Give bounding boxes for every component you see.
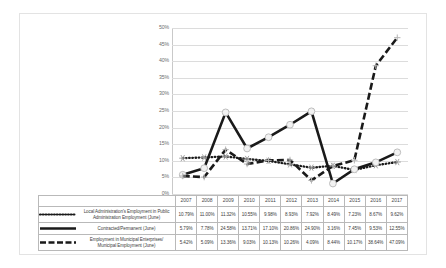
table-value-cell: 24.58% [218, 223, 239, 235]
y-axis-tick: 5% [162, 175, 169, 180]
table-header-row: 2007200820092010201120122013201420152016… [39, 196, 408, 207]
series-1-marker [179, 155, 186, 161]
table-year-header: 2008 [197, 196, 218, 207]
table-value-cell: 10.79% [176, 207, 197, 223]
table-value-cell: 5.42% [176, 235, 197, 251]
table-year-header: 2013 [302, 196, 323, 207]
series-2-marker [201, 165, 208, 172]
y-axis-tick: 45% [159, 42, 169, 47]
table-value-cell: 13.36% [218, 235, 239, 251]
table-value-cell: 3.16% [323, 223, 344, 235]
table-value-cell: 47.09% [386, 235, 407, 251]
y-axis-tick: 10% [159, 158, 169, 163]
data-table: 2007200820092010201120122013201420152016… [38, 195, 408, 251]
legend-label: Contracted/Permanent (June) [80, 226, 175, 231]
y-axis-tick: 35% [159, 75, 169, 80]
series-svg [172, 28, 408, 194]
table-value-cell: 20.86% [281, 223, 302, 235]
table-value-cell: 8.49% [323, 207, 344, 223]
table-year-header: 2014 [323, 196, 344, 207]
table-row: Contracted/Permanent (June)5.79%7.78%24.… [39, 223, 408, 235]
table-row: Employment in Municipal Enterprises/ Mun… [39, 235, 408, 251]
table-value-cell: 17.10% [260, 223, 281, 235]
table-body: Local Administration's Employment in Pub… [39, 207, 408, 251]
y-axis-tick: 30% [159, 92, 169, 97]
table-value-cell: 10.26% [281, 235, 302, 251]
table-value-cell: 13.71% [239, 223, 260, 235]
table-value-cell: 4.09% [302, 235, 323, 251]
table-year-header: 2009 [218, 196, 239, 207]
series-3-marker [244, 161, 250, 167]
table-value-cell: 9.03% [239, 235, 260, 251]
table-year-header: 2010 [239, 196, 260, 207]
legend-cell: Contracted/Permanent (June) [39, 223, 176, 235]
series-2-marker [244, 145, 251, 152]
table-value-cell: 5.79% [176, 223, 197, 235]
table-value-cell: 7.23% [344, 207, 365, 223]
series-1-marker [394, 159, 401, 165]
table-value-cell: 8.67% [365, 207, 386, 223]
legend-label: Employment in Municipal Enterprises/ Mun… [80, 237, 175, 248]
chart-card: 0%5%10%15%20%25%30%35%40%45%50% 20072008… [19, 13, 427, 255]
table-value-cell: 5.09% [197, 235, 218, 251]
plot-area [172, 28, 408, 194]
table-value-cell: 9.98% [260, 207, 281, 223]
series-2-marker [372, 159, 379, 166]
series-3-marker [373, 63, 379, 69]
table-value-cell: 9.53% [365, 223, 386, 235]
y-axis-tick: 25% [159, 108, 169, 113]
table-year-header: 2007 [176, 196, 197, 207]
table-value-cell: 7.92% [302, 207, 323, 223]
series-2-marker [265, 134, 272, 141]
table-value-cell: 24.90% [302, 223, 323, 235]
legend-cell: Employment in Municipal Enterprises/ Mun… [39, 235, 176, 251]
series-3-marker [351, 157, 357, 163]
table-corner-cell [39, 196, 176, 207]
legend-label: Local Administration's Employment in Pub… [80, 209, 175, 220]
table-value-cell: 10.55% [239, 207, 260, 223]
table-year-header: 2011 [260, 196, 281, 207]
table-year-header: 2017 [386, 196, 407, 207]
plot-wrapper: 0%5%10%15%20%25%30%35%40%45%50% [20, 14, 428, 196]
y-axis-tick: 50% [159, 25, 169, 30]
table-value-cell: 11.00% [197, 207, 218, 223]
table-year-header: 2016 [365, 196, 386, 207]
table-value-cell: 10.17% [344, 235, 365, 251]
table-value-cell: 8.44% [323, 235, 344, 251]
table-value-cell: 7.45% [344, 223, 365, 235]
series-2-marker [287, 121, 294, 128]
table-value-cell: 7.78% [197, 223, 218, 235]
table-row: Local Administration's Employment in Pub… [39, 207, 408, 223]
legend-swatch-solid-icon [39, 225, 77, 232]
y-axis-tick-labels: 0%5%10%15%20%25%30%35%40%45%50% [147, 28, 171, 194]
legend-swatch-dashed-icon [39, 239, 77, 246]
series-2-marker [222, 109, 229, 116]
y-axis-tick: 15% [159, 142, 169, 147]
table-value-cell: 12.55% [386, 223, 407, 235]
y-axis-tick: 20% [159, 125, 169, 130]
table-value-cell: 11.32% [218, 207, 239, 223]
table-value-cell: 10.13% [260, 235, 281, 251]
table-value-cell: 9.62% [386, 207, 407, 223]
table-value-cell: 8.93% [281, 207, 302, 223]
series-3-marker [265, 157, 271, 163]
table-value-cell: 38.64% [365, 235, 386, 251]
table-year-header: 2012 [281, 196, 302, 207]
series-2-marker [308, 108, 315, 115]
series-2-marker [330, 180, 337, 187]
y-axis-tick: 40% [159, 59, 169, 64]
legend-cell: Local Administration's Employment in Pub… [39, 207, 176, 223]
series-2-marker [351, 166, 358, 173]
table-year-header: 2015 [344, 196, 365, 207]
series-1-marker [308, 165, 315, 171]
legend-swatch-dotted-icon [39, 211, 77, 218]
series-2-marker [394, 149, 401, 156]
